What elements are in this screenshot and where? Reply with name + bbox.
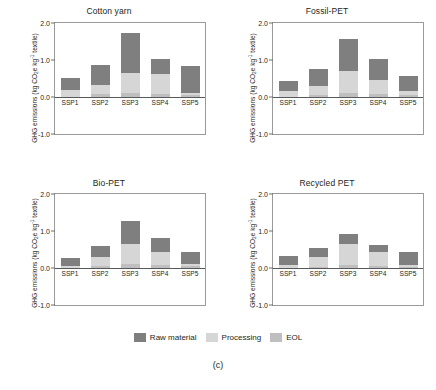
bar-segment-raw-material — [339, 39, 358, 72]
bar-segment-processing — [121, 73, 140, 93]
bar-ssp2 — [91, 194, 110, 305]
bar-segment-processing — [181, 93, 200, 95]
bar-ssp4 — [151, 23, 170, 134]
panel-bio-pet: Bio-PETGHG emissions (kg CO2e kg-1 texti… — [0, 175, 218, 330]
bar-ssp5 — [399, 194, 418, 305]
bar-segment-processing — [369, 80, 388, 94]
bar-segment-eol — [399, 267, 418, 268]
bar-segment-eol — [121, 264, 140, 268]
bar-ssp2 — [91, 23, 110, 134]
bar-segment-processing — [121, 244, 140, 265]
y-axis-label-text: GHG emissions (kg CO2e kg-1 textile) — [31, 198, 38, 308]
bar-ssp3 — [121, 23, 140, 134]
bar-segment-eol — [399, 95, 418, 97]
bar-segment-raw-material — [121, 221, 140, 243]
x-tick-label-ssp2: SSP2 — [92, 99, 109, 106]
bar-segment-raw-material — [369, 59, 388, 80]
figure-root: Cotton yarnGHG emissions (kg CO2e kg-1 t… — [0, 0, 436, 390]
bar-ssp4 — [369, 23, 388, 134]
panel-title: Fossil-PET — [218, 6, 436, 16]
x-tick-label-ssp5: SSP5 — [182, 270, 199, 277]
bar-segment-processing — [279, 265, 298, 268]
plot-area: 2.01.00.0-1.0SSP1SSP2SSP3SSP4SSP5 — [54, 22, 206, 135]
y-axis-label: GHG emissions (kg CO2e kg-1 textile) — [248, 198, 257, 308]
panel-cotton-yarn: Cotton yarnGHG emissions (kg CO2e kg-1 t… — [0, 0, 218, 175]
bar-segment-raw-material — [181, 252, 200, 264]
bar-segment-raw-material — [91, 246, 110, 257]
bar-segment-raw-material — [91, 65, 110, 85]
legend-item-processing: Processing — [206, 333, 262, 342]
bar-ssp2 — [309, 194, 328, 305]
panel-title: Bio-PET — [0, 178, 218, 188]
bar-segment-processing — [369, 252, 388, 266]
bar-segment-eol — [181, 266, 200, 268]
panel-recycled-pet: Recycled PETGHG emissions (kg CO2e kg-1 … — [218, 175, 436, 330]
y-axis-label-text: GHG emissions (kg CO2e kg-1 textile) — [31, 33, 38, 143]
bar-segment-processing — [399, 91, 418, 95]
x-tick-label-ssp3: SSP3 — [340, 270, 357, 277]
bar-ssp5 — [181, 23, 200, 134]
bar-ssp1 — [279, 23, 298, 134]
x-tick-label-ssp1: SSP1 — [280, 99, 297, 106]
bar-ssp5 — [399, 23, 418, 134]
x-tick-label-ssp5: SSP5 — [182, 99, 199, 106]
legend-swatch-processing — [206, 333, 218, 342]
x-tick-label-ssp4: SSP4 — [152, 270, 169, 277]
bar-segment-raw-material — [181, 66, 200, 93]
bar-ssp1 — [61, 194, 80, 305]
bar-ssp4 — [151, 194, 170, 305]
bar-segment-processing — [309, 257, 328, 267]
bars-layer — [55, 23, 205, 134]
bar-segment-processing — [279, 91, 298, 97]
x-tick-label-ssp1: SSP1 — [62, 270, 79, 277]
bar-segment-raw-material — [61, 78, 80, 90]
x-tick-label-ssp3: SSP3 — [122, 270, 139, 277]
x-tick-label-ssp5: SSP5 — [400, 270, 417, 277]
y-axis-label: GHG emissions (kg CO2e kg-1 textile) — [248, 33, 257, 143]
bar-segment-processing — [399, 265, 418, 267]
bars-layer — [273, 23, 423, 134]
panel-grid: Cotton yarnGHG emissions (kg CO2e kg-1 t… — [0, 0, 436, 330]
plot-area: 2.01.00.0-1.0SSP1SSP2SSP3SSP4SSP5 — [272, 193, 424, 306]
bar-segment-eol — [369, 266, 388, 268]
bar-segment-raw-material — [151, 238, 170, 252]
y-axis-label-text: GHG emissions (kg CO2e kg-1 textile) — [249, 198, 256, 308]
bar-segment-processing — [151, 252, 170, 265]
bar-ssp1 — [61, 23, 80, 134]
bar-segment-processing — [151, 74, 170, 93]
x-tick-label-ssp1: SSP1 — [280, 270, 297, 277]
y-axis-label: GHG emissions (kg CO2e kg-1 textile) — [30, 198, 39, 308]
bar-segment-processing — [339, 244, 358, 265]
bar-segment-processing — [91, 85, 110, 95]
bar-segment-raw-material — [309, 248, 328, 257]
bar-segment-raw-material — [121, 33, 140, 73]
bar-ssp5 — [181, 194, 200, 305]
x-tick-label-ssp4: SSP4 — [370, 99, 387, 106]
panel-fossil-pet: Fossil-PETGHG emissions (kg CO2e kg-1 te… — [218, 0, 436, 175]
bar-segment-eol — [369, 94, 388, 97]
x-tick-label-ssp1: SSP1 — [62, 99, 79, 106]
bars-layer — [55, 194, 205, 305]
panel-title: Recycled PET — [218, 178, 436, 188]
figure-caption: (c) — [0, 360, 436, 370]
bar-ssp3 — [339, 194, 358, 305]
bar-segment-raw-material — [151, 59, 170, 74]
bar-segment-raw-material — [399, 252, 418, 265]
bar-ssp3 — [339, 23, 358, 134]
bar-ssp3 — [121, 194, 140, 305]
bar-segment-raw-material — [61, 258, 80, 266]
bar-segment-processing — [309, 86, 328, 95]
plot-area: 2.01.00.0-1.0SSP1SSP2SSP3SSP4SSP5 — [272, 22, 424, 135]
legend-label: Processing — [222, 333, 262, 342]
bar-segment-raw-material — [399, 76, 418, 91]
bar-segment-eol — [309, 95, 328, 97]
panel-title: Cotton yarn — [0, 6, 218, 16]
bar-segment-processing — [61, 266, 80, 268]
bar-ssp2 — [309, 23, 328, 134]
bar-segment-eol — [151, 265, 170, 268]
chart-legend: Raw materialProcessingEOL — [0, 333, 436, 342]
bar-segment-eol — [309, 267, 328, 268]
x-tick-label-ssp2: SSP2 — [92, 270, 109, 277]
bar-segment-eol — [91, 266, 110, 268]
bars-layer — [273, 194, 423, 305]
